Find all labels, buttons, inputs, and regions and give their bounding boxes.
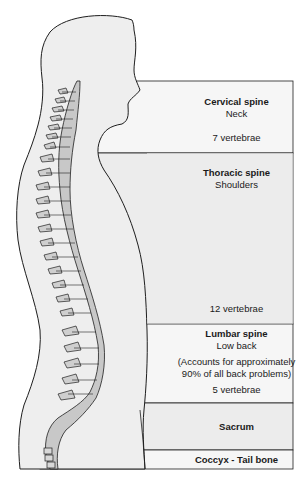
cervical-count: 7 vertebrae [180,132,293,144]
lumbar-note-2: 90% of all back problems) [166,368,303,380]
spine-diagram: Cervical spine Neck 7 vertebrae Thoracic… [0,0,303,478]
thoracic-subtitle: Shoulders [180,179,293,191]
lumbar-note-1: (Accounts for approximately [166,356,303,368]
coccyx-title: Coccyx - Tail bone [180,454,293,466]
lumbar-subtitle: Low back [180,340,293,352]
thoracic-count: 12 vertebrae [180,303,293,315]
thoracic-count-label: 12 vertebrae [180,303,293,315]
sacrum-label: Sacrum [180,421,293,433]
coccyx-label: Coccyx - Tail bone [180,454,293,466]
thoracic-label: Thoracic spine Shoulders [180,167,293,191]
lumbar-title: Lumbar spine [180,328,293,340]
cervical-label: Cervical spine Neck 7 vertebrae [180,96,293,144]
cervical-subtitle: Neck [180,108,293,120]
lumbar-count: 5 vertebrae [180,384,293,396]
sacrum-title: Sacrum [180,421,293,433]
lumbar-label: Lumbar spine Low back (Accounts for appr… [180,328,293,396]
thoracic-title: Thoracic spine [180,167,293,179]
cervical-title: Cervical spine [180,96,293,108]
spine-illustration [0,0,303,478]
